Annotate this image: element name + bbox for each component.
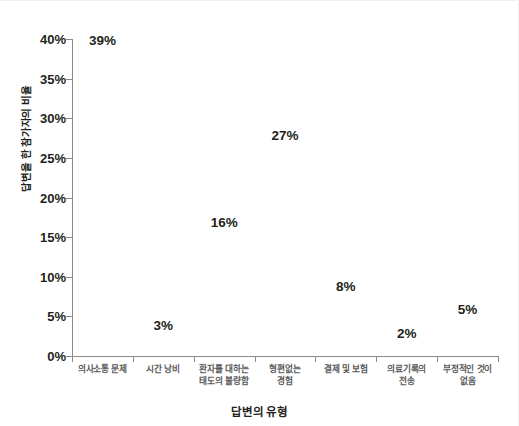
x-tick-mark	[498, 356, 499, 362]
y-tick-mark	[66, 79, 72, 80]
x-axis-title: 답변의 유형	[0, 403, 519, 419]
data-value-label: 5%	[458, 304, 478, 318]
y-tick-label: 40%	[20, 33, 66, 46]
x-tick-mark	[72, 356, 73, 362]
data-value-label: 8%	[336, 280, 356, 294]
x-category-label: 부정적인 것이 없음	[429, 364, 506, 387]
y-tick-label: 25%	[20, 152, 66, 165]
y-tick-mark	[66, 277, 72, 278]
x-tick-mark	[255, 356, 256, 362]
y-tick-label: 15%	[20, 231, 66, 244]
y-axis-tick-labels: 0%5%10%15%20%25%30%35%40%	[20, 1, 66, 426]
y-tick-label: 20%	[20, 192, 66, 205]
data-value-label: 3%	[154, 319, 174, 333]
y-tick-mark	[66, 158, 72, 159]
y-tick-mark	[66, 198, 72, 199]
x-tick-mark	[315, 356, 316, 362]
data-value-label: 2%	[397, 327, 417, 341]
y-tick-mark	[66, 118, 72, 119]
chart-figure: 답변을 한 참가자의 비율 0%5%10%15%20%25%30%35%40% …	[0, 0, 519, 426]
x-tick-mark	[133, 356, 134, 362]
y-tick-mark	[66, 237, 72, 238]
y-tick-label: 5%	[20, 310, 66, 323]
y-tick-label: 10%	[20, 271, 66, 284]
data-value-label: 16%	[211, 216, 238, 230]
y-tick-label: 0%	[20, 350, 66, 363]
x-tick-mark	[194, 356, 195, 362]
data-value-label: 39%	[89, 34, 116, 48]
x-tick-mark	[437, 356, 438, 362]
data-value-label: 27%	[271, 129, 298, 143]
y-tick-mark	[66, 316, 72, 317]
y-tick-label: 30%	[20, 112, 66, 125]
x-axis-line	[72, 356, 498, 357]
y-axis-line	[72, 39, 73, 356]
y-tick-mark	[66, 39, 72, 40]
y-tick-label: 35%	[20, 73, 66, 86]
x-tick-mark	[376, 356, 377, 362]
